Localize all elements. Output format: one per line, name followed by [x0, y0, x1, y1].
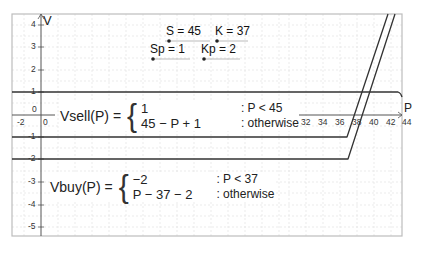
vsell-case2-expr: 45 − P + 1 [141, 116, 201, 131]
x-tick-label: 38 [352, 117, 361, 127]
y-tick-label: 3 [31, 41, 36, 51]
y-tick-label: -5 [28, 221, 36, 231]
vsell-case1-cond: : P < 45 [241, 101, 299, 116]
vsell-cases: 1 : P < 45 45 − P + 1 : otherwise [141, 101, 299, 131]
vsell-formula-lhs: Vsell(P) = [60, 108, 121, 124]
x-axis-label: P [404, 101, 412, 115]
brace-icon: { [119, 171, 129, 203]
y-axis-label: V [43, 13, 52, 28]
vbuy-formula-lhs: Vbuy(P) = [50, 179, 113, 195]
y-tick-label: -4 [28, 199, 36, 209]
vbuy-case2-expr: P − 37 − 2 [133, 187, 193, 202]
y-tick-label: -2 [28, 153, 36, 163]
vsell-case2-cond: : otherwise [241, 116, 299, 131]
x-tick-label: 42 [386, 117, 395, 127]
vbuy-cases: −2 : P < 37 P − 37 − 2 : otherwise [133, 172, 275, 202]
brace-icon: { [127, 100, 137, 132]
slider-k-label: K = 37 [215, 24, 250, 38]
x-tick-label: -2 [17, 117, 25, 127]
y-tick-label: 4 [31, 19, 36, 29]
y-tick-label: -1 [28, 131, 36, 141]
y-tick-label: 1 [31, 86, 36, 96]
vsell-formula[interactable]: Vsell(P) = { 1 : P < 45 45 − P + 1 : oth… [60, 101, 299, 131]
slider-sp-label: Sp = 1 [150, 42, 185, 56]
x-tick-label: 36 [335, 117, 344, 127]
x-tick-label: 32 [301, 117, 310, 127]
x-tick-label: 0 [43, 117, 48, 127]
vbuy-case1-expr: −2 [133, 172, 193, 187]
x-tick-label: 40 [369, 117, 378, 127]
slider-s-label: S = 45 [166, 24, 201, 38]
y-tick-label: 2 [31, 64, 36, 74]
y-tick-label: -3 [28, 176, 36, 186]
vbuy-case2-cond: : otherwise [216, 187, 274, 202]
vbuy-case1-cond: : P < 37 [216, 172, 274, 187]
vsell-case1-expr: 1 [141, 101, 201, 116]
slider-kp-handle[interactable] [202, 57, 206, 61]
x-tick-label: 44 [402, 117, 411, 127]
x-tick-label: 34 [318, 117, 327, 127]
slider-sp-handle[interactable] [151, 57, 155, 61]
vbuy-formula[interactable]: Vbuy(P) = { −2 : P < 37 P − 37 − 2 : oth… [50, 172, 274, 202]
slider-kp-label: Kp = 2 [201, 42, 236, 56]
y-tick-label: 0 [32, 104, 37, 114]
